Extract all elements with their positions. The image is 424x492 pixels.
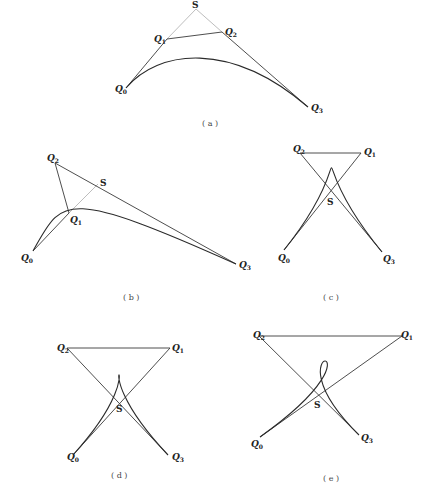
caption-a: ( a ) [202, 119, 218, 128]
label-q3: Q3 [239, 260, 251, 271]
label-q2: Q2 [225, 27, 237, 38]
label-q3: Q3 [383, 254, 395, 265]
caption-c: ( c ) [323, 293, 339, 302]
panel-b: Q2 S Q1 Q0 Q3 ( b ) [21, 153, 251, 302]
control-edge-q0-q1 [33, 213, 69, 251]
control-edge-q2-q3 [259, 336, 359, 435]
caption-d: ( d ) [111, 471, 127, 480]
label-q2: Q2 [57, 343, 69, 354]
label-q1: Q1 [70, 215, 82, 226]
label-q1: Q1 [364, 147, 376, 158]
panel-e: Q2 Q1 S Q0 Q3 ( e ) [251, 330, 413, 483]
label-q1: Q1 [172, 343, 184, 354]
bezier-curve [33, 209, 236, 264]
label-s: S [116, 404, 123, 414]
label-q0: Q0 [251, 439, 263, 450]
label-s: S [100, 178, 107, 188]
bezier-curve [260, 361, 359, 437]
label-q0: Q0 [21, 253, 33, 264]
control-edge-q0-q1 [260, 336, 402, 437]
label-s: S [314, 400, 321, 410]
caption-b: ( b ) [123, 293, 139, 302]
panel-a: S Q1 Q2 Q0 Q3 ( a ) [115, 0, 323, 128]
control-edge-q2-q3 [222, 32, 308, 107]
label-q2: Q2 [253, 330, 265, 341]
bezier-figure: S Q1 Q2 Q0 Q3 ( a ) Q2 S Q1 Q0 Q3 ( b ) … [0, 0, 424, 492]
control-edge-q2-q3 [55, 163, 236, 264]
label-q3: Q3 [172, 452, 184, 463]
label-q2: Q2 [293, 144, 305, 155]
control-edge-q0-q1 [73, 348, 170, 455]
label-q0: Q0 [67, 452, 79, 463]
panel-d: Q2 Q1 S Q0 Q3 ( d ) [57, 343, 184, 480]
bezier-curve [126, 58, 308, 107]
label-q1: Q1 [401, 330, 413, 341]
label-q2: Q2 [47, 153, 59, 164]
extension-q1-s [167, 9, 196, 39]
label-q0: Q0 [278, 253, 290, 264]
control-edge-q2-q3 [67, 348, 168, 455]
label-q3: Q3 [311, 103, 323, 114]
label-q0: Q0 [115, 84, 127, 95]
bezier-curve [73, 375, 168, 455]
control-edge-q1-q2 [55, 163, 69, 213]
extension-s-q2 [196, 9, 222, 32]
control-edge-q1-q2 [167, 32, 222, 39]
label-s: S [327, 197, 334, 207]
label-q1: Q1 [154, 34, 166, 45]
panel-c: Q2 Q1 S Q0 Q3 ( c ) [278, 144, 395, 302]
caption-e: ( e ) [323, 474, 339, 483]
bezier-curve [284, 168, 382, 252]
label-q3: Q3 [361, 433, 373, 444]
label-s: S [192, 0, 199, 10]
